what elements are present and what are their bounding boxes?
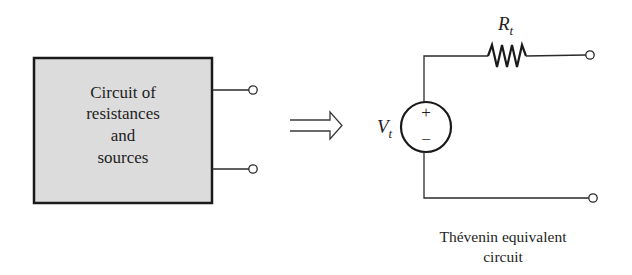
wire-top-right [526, 55, 586, 56]
caption-line-2: circuit [483, 248, 523, 265]
terminal-top-icon [586, 51, 594, 59]
terminal-bottom-icon [589, 194, 597, 202]
double-arrow-right-icon [290, 112, 342, 139]
wire-bottom [424, 152, 589, 198]
resistor-label-subscript: t [510, 23, 514, 38]
resistor-label: Rt [497, 13, 514, 38]
source-minus-sign: − [421, 130, 431, 149]
circuit-label-line-2: resistances [86, 104, 160, 123]
source-plus-sign: + [421, 103, 431, 122]
circuit-label-line-1: Circuit of [90, 83, 156, 102]
terminal-bottom-icon [249, 165, 257, 173]
source-label-subscript: t [389, 126, 393, 141]
terminal-top-icon [249, 86, 257, 94]
thevenin-equivalent-circuit: + − Vt Rt Thévenin equivalent circuit [377, 13, 597, 265]
original-circuit: Circuit of resistances and sources [34, 58, 257, 203]
resistor-label-main: R [497, 13, 510, 34]
circuit-label-line-3: and [111, 126, 136, 145]
resistor-icon [488, 45, 526, 67]
thevenin-diagram: Circuit of resistances and sources + − V… [0, 0, 632, 275]
circuit-label-line-4: sources [98, 148, 149, 167]
caption-line-1: Thévenin equivalent [440, 228, 568, 245]
wire-top-left [424, 56, 488, 102]
source-label: Vt [377, 116, 393, 141]
